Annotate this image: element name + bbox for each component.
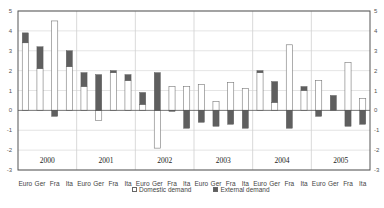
y-tick-label: 1 [9, 88, 13, 94]
external-bar [96, 75, 102, 111]
external-bar [242, 110, 248, 128]
category-label: Euro [18, 180, 32, 187]
legend-domestic-label: Domestic demand [139, 186, 191, 193]
external-bar [140, 92, 146, 104]
domestic-bar [213, 101, 219, 110]
category-label: Ger [93, 180, 105, 187]
external-bar [52, 110, 58, 116]
external-bar [37, 47, 43, 69]
domestic-bar [301, 91, 307, 111]
y-tick-label: -3 [374, 167, 380, 173]
external-bar [345, 110, 351, 126]
legend: Domestic demand External demand [132, 186, 270, 193]
domestic-bar [66, 67, 72, 111]
y-tick-label: 4 [374, 28, 378, 34]
external-bar [125, 75, 131, 81]
category-label: Ita [300, 180, 308, 187]
y-tick-label: 1 [374, 88, 378, 94]
external-bar [184, 110, 190, 128]
external-bar [154, 73, 160, 111]
category-label: Fra [343, 180, 353, 187]
external-bar [228, 110, 234, 124]
external-bar [272, 82, 278, 103]
y-tick-label: 3 [9, 48, 13, 54]
y-tick-label: -2 [374, 147, 380, 153]
domestic-bar [360, 98, 366, 110]
year-label: 2003 [216, 156, 231, 165]
year-label: 2005 [333, 156, 348, 165]
external-bar [316, 110, 322, 116]
domestic-bar [81, 87, 87, 111]
domestic-bar [37, 69, 43, 111]
domestic-bar [286, 45, 292, 111]
external-bar [213, 110, 219, 126]
stacked-bar-chart: 543210-1-2-3 543210-1-2-3 20002001200220… [0, 0, 384, 208]
y-tick-label: 2 [9, 68, 13, 74]
category-label: Fra [284, 180, 294, 187]
legend-external-label: External demand [220, 186, 269, 193]
domestic-swatch-icon [132, 187, 137, 192]
domestic-bar [52, 21, 58, 110]
domestic-bar [242, 89, 248, 111]
legend-external: External demand [213, 186, 269, 193]
external-bar [198, 110, 204, 122]
external-bar [301, 87, 307, 91]
domestic-bar [96, 110, 102, 120]
y-tick-label: 5 [9, 8, 13, 14]
y-tick-label: 0 [9, 107, 13, 113]
year-label: 2004 [275, 156, 290, 165]
category-label: Ita [66, 180, 74, 187]
category-label: Ger [269, 180, 281, 187]
domestic-bar [316, 81, 322, 111]
y-tick-label: 4 [9, 28, 13, 34]
year-label: 2000 [40, 156, 55, 165]
category-label: Euro [77, 180, 91, 187]
external-bar [66, 51, 72, 67]
external-bar [110, 71, 116, 73]
y-tick-label: -2 [7, 147, 13, 153]
category-label: Euro [312, 180, 326, 187]
domestic-bar [184, 87, 190, 111]
domestic-bar [125, 81, 131, 111]
domestic-bar [228, 83, 234, 111]
external-swatch-icon [213, 187, 218, 192]
domestic-bar [22, 43, 28, 111]
domestic-bar [110, 73, 116, 111]
external-bar [257, 71, 263, 73]
external-bar [360, 110, 366, 124]
category-label: Ita [359, 180, 367, 187]
y-tick-label: -3 [7, 167, 13, 173]
y-tick-label: 0 [374, 107, 378, 113]
domestic-bar [198, 85, 204, 111]
y-tick-label: -1 [374, 127, 380, 133]
category-label: Ger [35, 180, 47, 187]
external-bar [81, 73, 87, 87]
external-bar [330, 95, 336, 110]
category-label: Ger [328, 180, 340, 187]
domestic-bar [169, 87, 175, 111]
y-tick-label: 5 [374, 8, 378, 14]
y-tick-label: 2 [374, 68, 378, 74]
domestic-bar [257, 73, 263, 111]
domestic-bar [272, 102, 278, 110]
domestic-bar [154, 110, 160, 148]
y-axis-right: 543210-1-2-3 [374, 8, 380, 173]
legend-domestic: Domestic demand [132, 186, 191, 193]
category-label: Fra [50, 180, 60, 187]
domestic-bar [345, 63, 351, 111]
external-bar [22, 33, 28, 43]
external-bar [286, 110, 292, 128]
year-label: 2001 [99, 156, 114, 165]
y-tick-label: 3 [374, 48, 378, 54]
y-tick-label: -1 [7, 127, 13, 133]
category-label: Ita [124, 180, 132, 187]
domestic-bar [140, 104, 146, 110]
category-label: Fra [108, 180, 118, 187]
year-label: 2002 [157, 156, 172, 165]
y-axis-left: 543210-1-2-3 [7, 8, 13, 173]
